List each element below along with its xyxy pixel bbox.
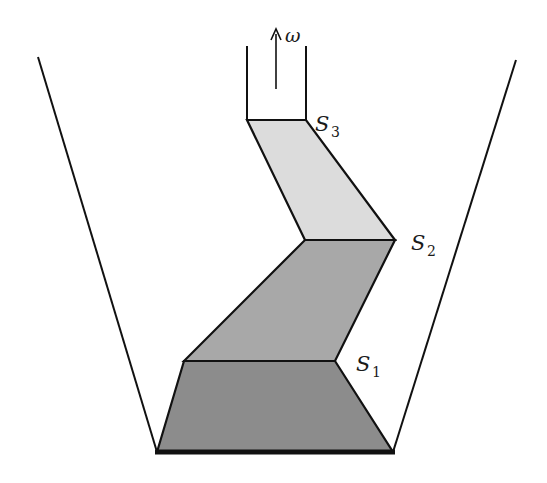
top-region: [247, 120, 395, 240]
s1-label: S 1: [356, 352, 381, 380]
left-container-wall: [38, 57, 157, 452]
omega-label: ω: [285, 24, 301, 46]
svg-text:S: S: [411, 231, 425, 255]
s3-label: S 3: [315, 112, 340, 140]
svg-text:3: 3: [331, 124, 340, 140]
svg-text:2: 2: [427, 243, 436, 259]
middle-region: [184, 240, 395, 361]
svg-text:S: S: [356, 352, 370, 376]
right-container-wall: [393, 60, 516, 452]
stacked-regions-diagram: ω S 3 S 2 S 1: [0, 0, 547, 483]
up-arrow-icon: [271, 29, 281, 89]
svg-text:S: S: [315, 112, 329, 136]
svg-text:1: 1: [372, 364, 381, 380]
s2-label: S 2: [411, 231, 436, 259]
